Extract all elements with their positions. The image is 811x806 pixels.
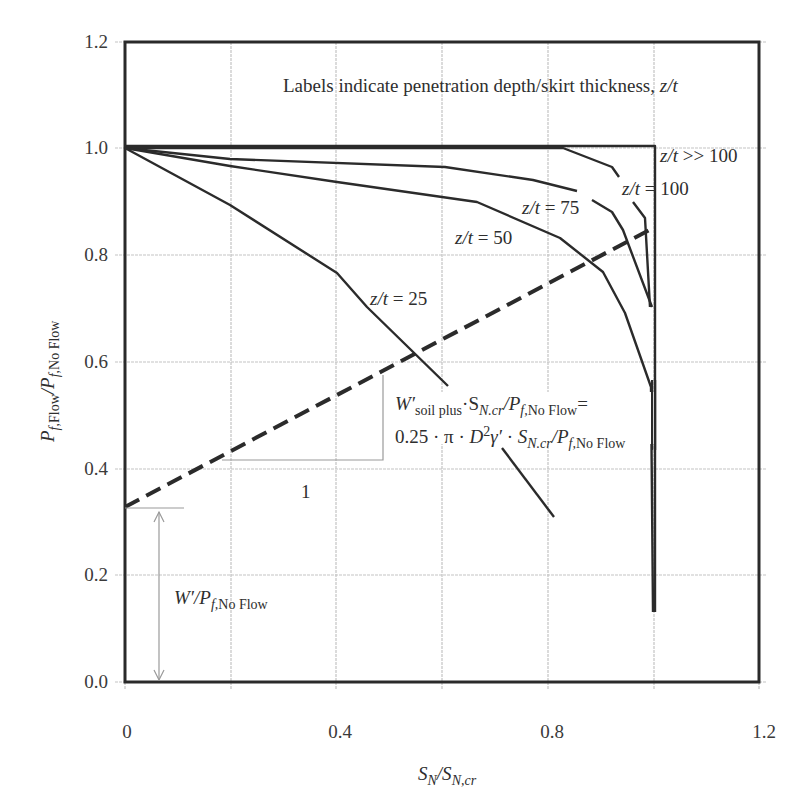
chart: 0.0 0.2 0.4 0.6 0.8 1.0 1.2 0 0.4 0.8 1.… — [0, 0, 811, 806]
x-tick-0.4: 0.4 — [328, 721, 352, 742]
y-tick-0.8: 0.8 — [84, 244, 108, 265]
dashed-weight-line — [125, 227, 655, 507]
y-axis-label: Pf,Flow/Pf,No Flow — [37, 320, 62, 443]
y-tick-0.6: 0.6 — [84, 351, 108, 372]
x-axis-label: SN/SN,cr — [418, 763, 477, 788]
y-tick-0.4: 0.4 — [84, 458, 108, 479]
chart-note: Labels indicate penetration depth/skirt … — [283, 75, 678, 96]
y-tick-0.2: 0.2 — [84, 564, 108, 585]
curve-zt-25 — [125, 148, 448, 386]
curve-zt-25-lower — [502, 448, 554, 517]
label-zt-100: z/t = 100 — [621, 178, 689, 199]
x-tick-0: 0 — [122, 721, 132, 742]
slope-run-label: 1 — [301, 481, 311, 502]
x-tick-1.2: 1.2 — [752, 721, 776, 742]
label-zt-50: z/t = 50 — [454, 227, 512, 248]
y-tick-1.0: 1.0 — [84, 137, 108, 158]
label-zt-gg100: z/t >> 100 — [659, 145, 737, 166]
x-tick-labels: 0 0.4 0.8 1.2 — [122, 721, 776, 742]
y-tick-1.2: 1.2 — [84, 31, 108, 52]
y-tick-labels: 0.0 0.2 0.4 0.6 0.8 1.0 1.2 — [84, 31, 108, 692]
curve-zt-100 — [125, 148, 619, 177]
intercept-label: W′/Pf,No Flow — [174, 587, 269, 612]
label-zt-75: z/t = 75 — [521, 197, 579, 218]
y-tick-0: 0.0 — [84, 671, 108, 692]
slope-triangle — [222, 375, 383, 460]
x-tick-0.8: 0.8 — [540, 721, 564, 742]
label-zt-25: z/t = 25 — [369, 288, 427, 309]
gridlines — [115, 42, 766, 690]
